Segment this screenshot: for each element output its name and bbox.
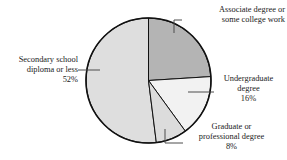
pie-label-undergraduate-degree: Undergraduate degree 16% bbox=[212, 74, 285, 105]
pie-label-undergraduate-degree-line2: degree bbox=[212, 84, 285, 94]
pie-label-graduate-degree-line1: Graduate or bbox=[212, 122, 252, 131]
pie-slice-associate-degree[interactable] bbox=[149, 18, 211, 81]
pie-label-undergraduate-degree-line1: Undergraduate bbox=[224, 74, 274, 83]
pie-label-graduate-degree: Graduate or professional degree 8% bbox=[178, 122, 285, 153]
pie-chart-figure: Associate degree or some college work Se… bbox=[0, 0, 287, 160]
pie-label-associate-degree-line1: Associate degree or bbox=[219, 5, 285, 14]
pie-label-graduate-degree-line2: professional degree bbox=[178, 132, 285, 142]
pie-label-secondary-school-line1: Secondary school bbox=[19, 55, 78, 64]
pie-label-associate-degree: Associate degree or some college work bbox=[182, 5, 285, 25]
pie-slice-secondary-school[interactable] bbox=[86, 18, 156, 143]
pie-label-graduate-degree-value: 8% bbox=[178, 142, 285, 152]
pie-label-associate-degree-line2: some college work bbox=[182, 15, 285, 25]
pie-label-secondary-school-line2: diploma or less bbox=[2, 65, 78, 75]
pie-label-secondary-school-value: 52% bbox=[2, 75, 78, 85]
pie-label-secondary-school: Secondary school diploma or less 52% bbox=[2, 55, 78, 86]
pie-label-undergraduate-degree-value: 16% bbox=[212, 94, 285, 104]
